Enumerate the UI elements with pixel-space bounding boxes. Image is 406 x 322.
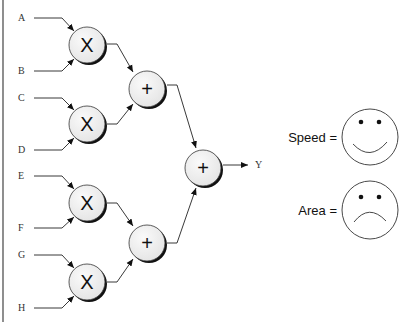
- multiply-icon: X: [80, 113, 93, 135]
- output-label-y: Y: [255, 159, 262, 170]
- node-mul2: X: [69, 106, 107, 144]
- sad-face-icon: [342, 181, 398, 239]
- input-label-h: H: [18, 302, 25, 313]
- input-label-d: D: [18, 144, 25, 155]
- node-add3: +: [185, 150, 223, 188]
- speed-label: Speed =: [288, 130, 337, 145]
- happy-face-icon: [342, 109, 398, 165]
- plus-icon: +: [141, 232, 153, 254]
- multiply-icon: X: [80, 271, 93, 293]
- multiply-icon: X: [80, 34, 93, 56]
- input-label-c: C: [18, 92, 25, 103]
- node-add1: +: [129, 71, 167, 109]
- input-labels: A B C D E F G H: [18, 12, 26, 313]
- input-label-a: A: [18, 12, 26, 23]
- input-label-f: F: [18, 222, 24, 233]
- input-label-b: B: [18, 65, 25, 76]
- plus-icon: +: [141, 78, 153, 100]
- area-label: Area =: [298, 203, 337, 218]
- node-add2: +: [129, 225, 167, 263]
- node-mul1: X: [69, 27, 107, 65]
- plus-icon: +: [197, 157, 209, 179]
- adder-tree-diagram: A B C D E F G H X: [0, 0, 406, 322]
- input-label-e: E: [18, 170, 24, 181]
- input-label-g: G: [18, 249, 25, 260]
- multiply-icon: X: [80, 192, 93, 214]
- node-mul3: X: [69, 185, 107, 223]
- node-mul4: X: [69, 264, 107, 302]
